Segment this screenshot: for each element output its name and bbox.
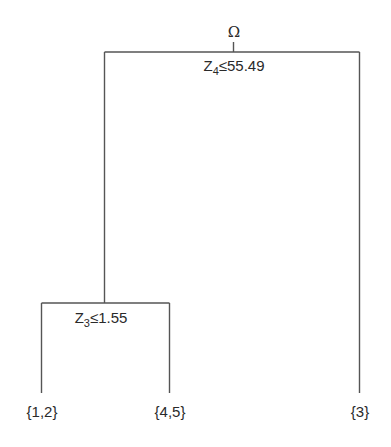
leaf-node: {1,2} bbox=[27, 403, 58, 421]
split-variable: Z bbox=[203, 57, 212, 74]
internal-split-rule: Z3≤1.55 bbox=[75, 309, 128, 327]
split-threshold: 1.55 bbox=[98, 309, 127, 326]
leaf-node: {4,5} bbox=[155, 403, 186, 421]
root-node-label: Ω bbox=[228, 23, 240, 41]
root-split-rule: Z4≤55.49 bbox=[203, 57, 264, 75]
split-operator: ≤ bbox=[219, 57, 227, 74]
tree-lines bbox=[0, 0, 391, 447]
split-threshold: 55.49 bbox=[227, 57, 265, 74]
split-variable: Z bbox=[75, 309, 84, 326]
leaf-node: {3} bbox=[351, 403, 369, 421]
split-operator: ≤ bbox=[90, 309, 98, 326]
